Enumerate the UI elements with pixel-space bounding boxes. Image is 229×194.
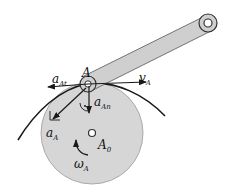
label-omega-A: ωA <box>74 155 89 173</box>
label-point-A: A <box>82 64 91 80</box>
upper-pivot-joint <box>199 14 217 32</box>
label-a-A: aA <box>46 124 58 142</box>
center-A0-pin <box>89 130 96 137</box>
label-a-An: aAn <box>94 93 111 111</box>
kinematics-diagram <box>0 0 229 194</box>
label-A0: A0 <box>98 136 111 154</box>
label-v-A: vA <box>139 69 151 87</box>
label-a-At: aAt <box>52 70 67 88</box>
